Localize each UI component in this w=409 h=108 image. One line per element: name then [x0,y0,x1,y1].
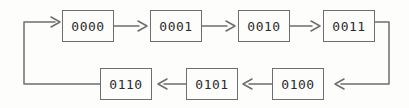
node-0101-label: 0101 [195,78,228,91]
node-0010-label: 0010 [247,20,280,33]
node-0010[interactable]: 0010 [238,10,290,42]
node-0100[interactable]: 0100 [272,68,324,100]
node-0001[interactable]: 0001 [150,10,202,42]
node-0000[interactable]: 0000 [62,10,114,42]
state-sequence-diagram: 0000 0001 0010 0011 0100 0101 0110 [0,0,409,108]
node-0000-label: 0000 [71,20,104,33]
node-0011[interactable]: 0011 [323,10,375,42]
node-0011-label: 0011 [332,20,365,33]
node-0001-label: 0001 [159,20,192,33]
node-0100-label: 0100 [281,78,314,91]
node-0110[interactable]: 0110 [100,68,152,100]
node-0101[interactable]: 0101 [186,68,238,100]
node-0110-label: 0110 [109,78,142,91]
